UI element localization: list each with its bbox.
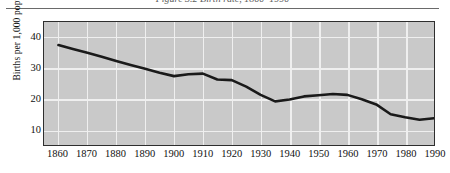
x-axis-ticks: 1860187018801890190019101920193019401950…	[0, 148, 445, 168]
y-tick-label: 40	[9, 32, 41, 43]
figure-title: Figure 3.2 Birth rate, 1860–1990	[0, 0, 445, 4]
x-tick-label: 1990	[415, 148, 450, 161]
horizontal-rule	[6, 8, 439, 9]
data-line-births	[44, 22, 434, 145]
figure-title-strip: Figure 3.2 Birth rate, 1860–1990	[0, 0, 445, 7]
plot-area	[43, 21, 435, 146]
y-tick-label: 30	[9, 63, 41, 74]
y-tick-label: 20	[9, 94, 41, 105]
y-tick-label: 10	[9, 125, 41, 136]
